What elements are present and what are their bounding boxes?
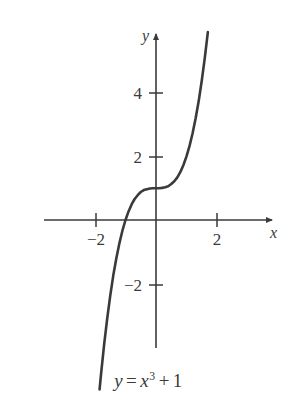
caption-equals: =	[123, 370, 140, 391]
y-axis-label: y	[142, 27, 149, 45]
y-tick-label-pos4: 4	[116, 84, 142, 104]
x-tick-label-neg2: −2	[76, 230, 116, 250]
cubic-function-plot	[0, 0, 297, 411]
y-tick-label-neg2: −2	[108, 276, 142, 296]
figure-caption: y=x3+1	[0, 370, 297, 392]
caption-y: y	[114, 370, 123, 391]
caption-constant: 1	[173, 370, 183, 391]
caption-plus: +	[156, 370, 173, 391]
caption-exponent: 3	[149, 370, 155, 383]
figure-container: −2 2 4 2 −2 y x y=x3+1	[0, 0, 297, 411]
x-axis-label: x	[270, 224, 277, 242]
x-tick-label-pos2: 2	[202, 230, 232, 250]
caption-x: x	[140, 370, 149, 391]
y-tick-label-pos2: 2	[116, 148, 142, 168]
